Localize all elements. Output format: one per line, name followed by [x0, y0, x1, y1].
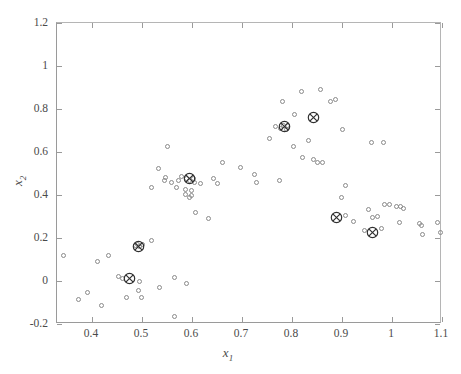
data-point — [387, 202, 392, 207]
x-tick-label: 0.4 — [84, 327, 98, 339]
data-point — [193, 210, 198, 215]
x-tick — [242, 317, 243, 322]
y-tick — [57, 66, 62, 67]
data-point — [76, 297, 81, 302]
x-tick-top — [242, 23, 243, 28]
data-point — [397, 220, 402, 225]
y-tick-right — [435, 281, 440, 282]
x-tick-label: 0.9 — [334, 327, 348, 339]
data-point — [172, 275, 177, 280]
y-tick-label: 0.8 — [0, 102, 48, 114]
data-point — [139, 295, 144, 300]
y-tick-right — [435, 324, 440, 325]
x-tick-top — [342, 23, 343, 28]
x-tick — [342, 317, 343, 322]
y-tick — [57, 195, 62, 196]
data-point — [280, 99, 285, 104]
y-tick-right — [435, 23, 440, 24]
cluster-center-marker — [278, 120, 291, 133]
x-tick — [192, 317, 193, 322]
y-tick-right — [435, 238, 440, 239]
x-tick-top — [442, 23, 443, 28]
x-tick-label: 0.5 — [134, 327, 148, 339]
data-point — [299, 89, 304, 94]
data-point — [328, 99, 333, 104]
y-tick — [57, 152, 62, 153]
data-point — [220, 160, 225, 165]
data-point — [375, 214, 380, 219]
data-point — [379, 226, 384, 231]
data-point — [340, 127, 345, 132]
data-point — [215, 181, 220, 186]
y-tick-right — [435, 109, 440, 110]
data-point — [137, 279, 142, 284]
data-point — [187, 195, 192, 200]
data-point — [149, 185, 154, 190]
cluster-center-marker — [183, 172, 196, 185]
data-point — [183, 187, 188, 192]
x-tick-top — [92, 23, 93, 28]
y-tick-label: 1 — [0, 59, 48, 71]
data-point — [318, 87, 323, 92]
data-point — [382, 202, 387, 207]
cluster-center-marker — [330, 211, 343, 224]
data-point — [184, 281, 189, 286]
y-tick-right — [435, 66, 440, 67]
x-tick-label: 0.7 — [234, 327, 248, 339]
x-tick-label: 1.1 — [434, 327, 448, 339]
y-tick — [57, 109, 62, 110]
data-point — [315, 160, 320, 165]
data-point — [238, 165, 243, 170]
data-point — [169, 180, 174, 185]
x-tick-label: 0.8 — [284, 327, 298, 339]
y-tick-label: 0.4 — [0, 188, 48, 200]
data-point — [320, 160, 325, 165]
data-point — [343, 183, 348, 188]
data-point — [198, 181, 203, 186]
data-point — [401, 206, 406, 211]
x-tick-label: 0.6 — [184, 327, 198, 339]
cluster-center-marker — [132, 240, 145, 253]
x-tick-top — [142, 23, 143, 28]
plot-area — [56, 22, 441, 323]
data-point — [343, 213, 348, 218]
data-point — [438, 230, 443, 235]
data-point — [291, 144, 296, 149]
data-point — [172, 314, 177, 319]
cluster-center-marker — [307, 111, 320, 124]
x-tick — [392, 317, 393, 322]
cluster-center-marker — [366, 226, 379, 239]
data-point — [435, 220, 440, 225]
data-point — [211, 176, 216, 181]
data-point — [149, 238, 154, 243]
data-point — [369, 140, 374, 145]
y-tick — [57, 23, 62, 24]
y-tick-right — [435, 152, 440, 153]
y-tick-label: 0 — [0, 274, 48, 286]
x-tick — [92, 317, 93, 322]
y-tick — [57, 238, 62, 239]
data-point — [106, 253, 111, 258]
y-tick-label: 0.2 — [0, 231, 48, 243]
x-tick — [292, 317, 293, 322]
y-tick — [57, 281, 62, 282]
data-point — [333, 97, 338, 102]
data-point — [381, 140, 386, 145]
data-point — [156, 166, 161, 171]
data-point — [157, 285, 162, 290]
data-point — [165, 144, 170, 149]
data-point — [99, 303, 104, 308]
cluster-center-marker — [123, 272, 136, 285]
x-tick-top — [192, 23, 193, 28]
y-tick-label: 0.6 — [0, 145, 48, 157]
data-point — [366, 207, 371, 212]
x-axis-title: x1 — [223, 345, 233, 363]
data-point — [420, 232, 425, 237]
data-point — [85, 290, 90, 295]
x-tick-label: 1 — [388, 327, 394, 339]
x-tick — [442, 317, 443, 322]
scatter-plot-figure: 0.40.50.60.70.80.911.1 -0.200.20.40.60.8… — [0, 0, 461, 374]
data-point — [206, 216, 211, 221]
data-point — [267, 136, 272, 141]
x-tick — [142, 317, 143, 322]
